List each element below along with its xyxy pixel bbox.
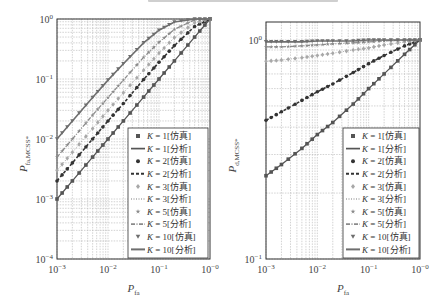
- circle-marker: [106, 119, 110, 123]
- square-marker: [96, 149, 100, 153]
- circle-marker: [157, 60, 161, 64]
- circle-marker: [55, 179, 59, 183]
- circle-marker: [351, 71, 355, 75]
- circle-marker: [338, 78, 342, 82]
- diamond-marker: [351, 48, 355, 53]
- square-marker: [106, 137, 110, 141]
- square-marker: [351, 102, 355, 106]
- square-marker: [331, 121, 335, 125]
- diamond-marker: [286, 57, 290, 62]
- square-marker: [179, 51, 183, 55]
- circle-marker: [310, 93, 314, 97]
- square-marker: [396, 59, 400, 63]
- diamond-marker: [280, 58, 284, 63]
- legend-label: K = 1[仿真]: [361, 130, 406, 141]
- square-marker: [203, 23, 207, 27]
- circle-marker: [372, 59, 376, 63]
- circle-marker: [382, 54, 386, 58]
- diamond-marker: [382, 43, 386, 48]
- figure: 10−310−210−110−010−410−310−210−1100PfaPf…: [0, 0, 440, 306]
- diamond-marker: [55, 168, 59, 173]
- circle-marker: [286, 106, 290, 110]
- x-tick-label: 10−2: [309, 263, 327, 275]
- circle-marker: [136, 159, 140, 163]
- x-tick-label: 10−1: [360, 263, 378, 275]
- square-marker: [408, 48, 412, 52]
- square-marker: [91, 155, 95, 159]
- diamond-marker: [367, 46, 371, 51]
- circle-marker: [316, 90, 320, 94]
- diamond-marker: [293, 56, 297, 61]
- legend-label: K = 1[仿真]: [146, 130, 191, 141]
- star-marker: [286, 44, 290, 48]
- square-marker: [173, 59, 177, 63]
- square-marker: [300, 147, 304, 151]
- legend-label: K = 5[仿真]: [146, 206, 191, 217]
- diamond-marker: [362, 46, 366, 51]
- circle-marker: [179, 37, 183, 41]
- square-marker: [377, 77, 381, 81]
- square-marker: [65, 185, 69, 189]
- circle-marker: [116, 108, 120, 112]
- circle-marker: [357, 68, 361, 72]
- square-marker: [362, 92, 366, 96]
- left-chart-false-alarm: 10−310−210−110−010−410−310−210−1100PfaPf…: [17, 13, 219, 297]
- square-marker: [269, 170, 273, 174]
- square-marker: [135, 103, 139, 107]
- square-marker: [111, 131, 115, 135]
- circle-marker: [351, 159, 355, 163]
- circle-marker: [269, 116, 273, 120]
- y-tick-label: 10−1: [36, 73, 54, 85]
- square-marker: [77, 171, 81, 175]
- square-marker: [310, 137, 314, 141]
- circle-marker: [396, 47, 400, 51]
- circle-marker: [345, 75, 349, 79]
- square-marker: [305, 142, 309, 146]
- square-marker: [84, 163, 88, 167]
- square-marker: [293, 152, 297, 156]
- circle-marker: [135, 86, 139, 90]
- square-marker: [122, 119, 126, 123]
- circle-marker: [65, 167, 69, 171]
- circle-marker: [331, 82, 335, 86]
- circle-marker: [152, 66, 156, 70]
- diamond-marker: [300, 55, 304, 60]
- x-tick-label: 10−0: [411, 263, 429, 275]
- diamond-marker: [77, 142, 81, 147]
- legend-label: K = 10[仿真]: [361, 231, 411, 242]
- circle-marker: [403, 44, 407, 48]
- square-marker: [338, 115, 342, 119]
- legend-label: K = 5[分析]: [361, 218, 406, 229]
- circle-marker: [77, 153, 81, 157]
- square-marker: [186, 43, 190, 47]
- circle-marker: [162, 55, 166, 59]
- circle-marker: [293, 102, 297, 106]
- right-chart-detection: 10−310−210−110−010−1100PfaPd,MCSS*K = 1[…: [226, 22, 429, 297]
- square-marker: [152, 83, 156, 87]
- square-marker: [198, 29, 202, 33]
- square-marker: [321, 129, 325, 133]
- square-marker: [128, 111, 132, 115]
- circle-marker: [60, 173, 64, 177]
- legend-label: K = 2[仿真]: [361, 155, 406, 166]
- square-marker: [157, 77, 161, 81]
- legend-label: K = 3[仿真]: [146, 181, 191, 192]
- square-marker: [147, 89, 151, 93]
- diamond-marker: [264, 59, 268, 64]
- diamond-marker: [321, 52, 325, 57]
- legend-label: K = 2[仿真]: [146, 155, 191, 166]
- simulation-markers-2: [264, 38, 422, 122]
- diamond-marker: [377, 44, 381, 49]
- legend-label: K = 3[分析]: [146, 193, 191, 204]
- circle-marker: [321, 87, 325, 91]
- diamond-marker: [275, 58, 279, 63]
- circle-marker: [362, 65, 366, 69]
- circle-marker: [326, 85, 330, 89]
- square-marker: [60, 191, 64, 195]
- x-tick-label: 10−2: [99, 263, 117, 275]
- square-marker: [116, 125, 120, 129]
- diamond-marker: [331, 51, 335, 56]
- diamond-marker: [179, 30, 183, 35]
- square-marker: [280, 163, 284, 167]
- circle-marker: [71, 161, 75, 165]
